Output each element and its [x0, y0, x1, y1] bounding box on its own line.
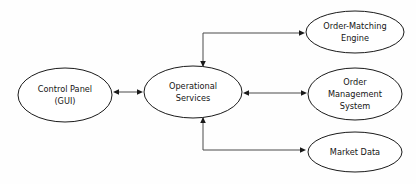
node-label-line-1: Operational: [169, 81, 217, 91]
node-label-line-1: Control Panel: [38, 84, 92, 94]
node-label-line-1: Order-Matching: [323, 21, 386, 31]
node-order-management-system[interactable]: Order Management System: [308, 68, 402, 120]
node-market-data[interactable]: Market Data: [308, 132, 402, 172]
diagram-canvas: Control Panel (GUI) Operational Services…: [0, 0, 416, 184]
edge-operational-services-to-order-management-system[interactable]: [243, 90, 307, 96]
edge-control-panel-to-operational-services[interactable]: [113, 89, 143, 95]
edge-line-segment: [203, 33, 303, 69]
node-label-line-2: (GUI): [54, 96, 75, 106]
node-label-line-3: System: [340, 101, 371, 111]
edge-operational-services-to-order-matching-engine[interactable]: [200, 30, 305, 69]
edge-line-segment: [203, 115, 304, 150]
arrow-head-right: [137, 89, 143, 95]
arrow-head-left: [113, 89, 119, 95]
node-operational-services[interactable]: Operational Services: [144, 66, 242, 118]
node-control-panel[interactable]: Control Panel (GUI): [18, 68, 112, 122]
node-order-matching-engine[interactable]: Order-Matching Engine: [306, 11, 404, 53]
edge-operational-services-to-market-data[interactable]: [200, 115, 306, 153]
arrow-head-left-into-operational-services: [243, 90, 249, 96]
arrow-head-right-into-order-management-system: [301, 90, 307, 96]
arrow-head-right-into-market-data: [300, 147, 306, 153]
arrow-head-right-into-order-matching-engine: [299, 30, 305, 36]
node-label-line-2: Engine: [341, 33, 369, 43]
node-label-line-1: Order: [343, 77, 367, 87]
architecture-diagram: Control Panel (GUI) Operational Services…: [0, 0, 416, 184]
node-label-line-2: Services: [176, 93, 211, 103]
node-label-line-2: Management: [328, 89, 383, 99]
node-label-line-1: Market Data: [330, 147, 380, 157]
